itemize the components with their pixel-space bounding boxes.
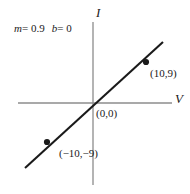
slope-intercept-annotation: m= 0.9b= 0 xyxy=(14,23,72,34)
intercept-value: = 0 xyxy=(57,22,71,34)
data-point-marker-neg10-neg9 xyxy=(44,139,50,145)
x-axis-label: V xyxy=(175,92,183,105)
y-axis-label: I xyxy=(96,6,100,19)
point-label-10-9: (10,9) xyxy=(150,68,177,79)
slope-symbol: m xyxy=(14,22,22,34)
slope-value: = 0.9 xyxy=(22,22,45,34)
point-label-neg10-neg9: (−10,−9) xyxy=(59,148,98,159)
point-label-origin: (0,0) xyxy=(96,108,117,119)
iv-characteristic-figure: I V m= 0.9b= 0 (0,0) (10,9) (−10,−9) xyxy=(0,0,190,194)
data-point-marker-10-9 xyxy=(143,59,149,65)
